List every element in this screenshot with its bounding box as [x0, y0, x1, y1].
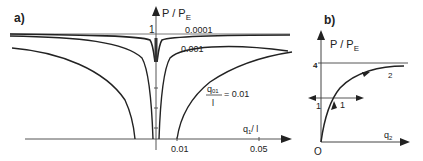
svg-text:= 0.01: = 0.01	[224, 89, 249, 99]
panel-b-x-label: q2	[384, 130, 393, 141]
x-tick-0.01: 0.01	[171, 144, 189, 154]
curve-0.0001-left	[10, 34, 155, 62]
right-arrow-icon	[356, 95, 364, 101]
branch-label-1-left: 1	[316, 101, 321, 111]
x-tick-0.05: 0.05	[250, 144, 268, 154]
b-x-axis-arrow-icon	[400, 138, 410, 146]
branch-label-2: 2	[388, 71, 393, 80]
buckling-diagram: a) P / PE 1 0.0001 0.001 q01 l = 0.01 0.…	[0, 0, 423, 161]
param-label: q01 l = 0.01	[206, 84, 249, 108]
y-tick-1: 1	[149, 24, 155, 35]
curve-label-0.001: 0.001	[181, 44, 204, 54]
left-arrow-icon	[308, 95, 316, 101]
svg-text:q01: q01	[207, 84, 219, 94]
curve-0.01-left	[12, 48, 135, 139]
panel-a-y-label: P / PE	[162, 7, 191, 22]
curve-arrow-icon-upper	[362, 72, 370, 77]
panel-a-label: a)	[14, 11, 25, 25]
x-axis-arrow-icon	[281, 135, 292, 143]
curve-0.001-left	[10, 36, 153, 139]
panel-b-label: b)	[324, 13, 335, 27]
branch-label-1-right: 1	[340, 100, 345, 110]
y-axis-arrow-icon	[152, 6, 160, 16]
center-spike	[155, 38, 158, 62]
curve-label-0.0001: 0.0001	[185, 25, 213, 35]
origin-label: O	[314, 146, 322, 157]
panel-b-y-label: P / PE	[330, 38, 359, 53]
panel-a-x-label: q1/ l	[243, 124, 258, 135]
b-y-axis-arrow-icon	[317, 30, 325, 40]
svg-text:l: l	[212, 98, 214, 108]
y-tick-4: 4	[313, 61, 318, 70]
